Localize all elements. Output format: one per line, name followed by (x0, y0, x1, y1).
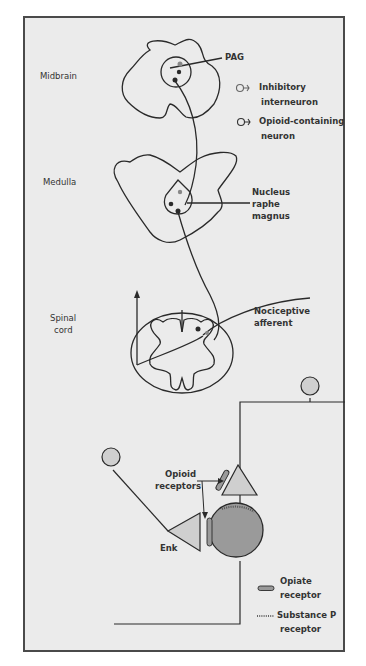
opiate-receptor-symbol (258, 586, 274, 591)
legend-neuron-symbols (237, 85, 251, 126)
legend-inhibitory-1: Inhibitory (259, 81, 306, 94)
inhibitory-cell-body (301, 377, 319, 395)
midbrain-outline (122, 39, 220, 118)
legend-opioid-2: neuron (261, 130, 295, 143)
legend-opioid-1: Opioid-containing (259, 115, 344, 128)
label-enk: Enk (160, 542, 178, 555)
legend-substance-p-1: Substance P (277, 609, 336, 622)
legend-inhibitory-2: interneuron (261, 96, 318, 109)
postsynaptic-neuron (209, 503, 263, 557)
legend-opiate-2: receptor (280, 589, 321, 602)
medulla-outline (114, 152, 236, 242)
label-nociceptive-2: afferent (254, 317, 292, 330)
legend-opiate-1: Opiate (280, 575, 312, 588)
label-medulla: Medulla (43, 176, 76, 189)
label-cord: cord (54, 324, 73, 337)
enk-cell-body (102, 448, 120, 466)
presynaptic-terminal (222, 465, 257, 495)
legend-substance-p-2: receptor (280, 623, 321, 636)
label-opioid-receptors-2: receptors (155, 480, 201, 493)
label-midbrain: Midbrain (40, 70, 77, 83)
label-pag: PAG (225, 51, 244, 64)
label-nrm-3: magnus (252, 210, 290, 223)
